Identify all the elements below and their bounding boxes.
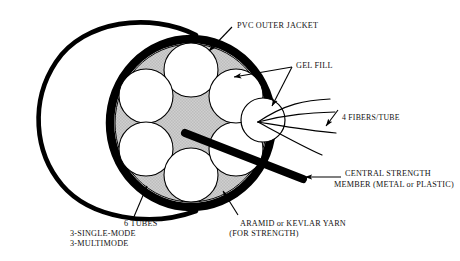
label-aramid-line1: ARAMID or KEVLAR YARN: [240, 219, 346, 228]
label-central-strength-line1: CENTRAL STRENGTH: [345, 169, 431, 178]
label-tubes-line1: 6 TUBES: [124, 219, 158, 228]
buffer-tube: [119, 69, 173, 123]
label-central-strength-line2: MEMBER (METAL or PLASTIC): [334, 180, 454, 189]
label-tubes-line2: 3-SINGLE-MODE: [70, 229, 136, 238]
tube-bulge: [241, 98, 285, 142]
diagram-canvas: PVC OUTER JACKET GEL FILL 4 FIBERS/TUBE …: [0, 0, 460, 261]
label-tubes-line3: 3-MULTIMODE: [70, 239, 129, 248]
label-aramid-line2: (FOR STRENGTH): [229, 229, 298, 238]
label-4-fibers-tube: 4 FIBERS/TUBE: [342, 113, 400, 122]
fiber-cable-diagram: PVC OUTER JACKET GEL FILL 4 FIBERS/TUBE …: [0, 0, 460, 261]
label-gel-fill: GEL FILL: [296, 61, 333, 70]
label-pvc-outer-jacket: PVC OUTER JACKET: [237, 21, 318, 30]
leader-gel-tube: [272, 67, 292, 106]
